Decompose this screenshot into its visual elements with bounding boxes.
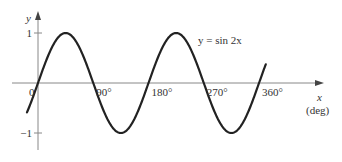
y-tick-label: −1 — [20, 127, 32, 139]
axes — [12, 11, 324, 150]
function-label: y = sin 2x — [198, 34, 242, 46]
x-axis-label: x — [316, 91, 322, 103]
y-tick-label: 1 — [27, 27, 33, 39]
x-axis-arrow-icon — [315, 80, 324, 86]
y-axis-label: y — [25, 12, 31, 24]
x-tick-label: 90° — [96, 86, 111, 98]
x-tick-label: 0 — [29, 86, 35, 98]
x-tick-label: 270° — [207, 86, 228, 98]
x-tick-label: 180° — [152, 86, 173, 98]
sine-chart: y x (deg) y = sin 2x 1−1090°180°270°360° — [0, 0, 342, 162]
y-axis-arrow-icon — [35, 11, 41, 20]
x-tick-label: 360° — [262, 86, 283, 98]
x-axis-unit: (deg) — [306, 104, 330, 117]
axis-labels: y x (deg) y = sin 2x — [25, 12, 330, 117]
